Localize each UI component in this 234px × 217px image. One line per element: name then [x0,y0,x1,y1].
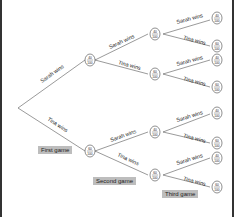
svg-text:100: 100 [152,133,158,137]
svg-text:100: 100 [214,159,220,163]
fraction-node: 60 100 [212,81,222,93]
fraction-node: 40 100 [212,107,222,119]
svg-text:100: 100 [152,35,158,39]
svg-text:100: 100 [214,61,220,65]
svg-text:60: 60 [215,83,219,87]
branch-label-tina: Tina wins [183,175,207,187]
fraction-node: 40 100 [212,12,222,24]
fraction-node: 60 100 [212,137,222,149]
svg-text:60: 60 [215,183,219,187]
svg-text:40: 40 [88,56,92,60]
branch-label-sarah: Sarah wins [39,63,65,84]
branch-label-sarah: Sarah wins [176,152,204,166]
branch-label-sarah: Sarah wins [176,54,204,67]
fraction-node: 40 100 [85,54,95,66]
fraction-node: 60 100 [212,181,222,193]
branch-label-tina: Tina wins [183,34,207,46]
branch-label-tina: Tina wins [46,116,69,134]
svg-text:60: 60 [215,42,219,46]
fraction-node: 60 100 [212,40,222,52]
branch-label-tina: Tina wins [117,151,141,166]
svg-text:100: 100 [87,152,93,156]
svg-text:100: 100 [214,144,220,148]
svg-text:60: 60 [88,147,92,151]
svg-text:60: 60 [153,70,157,74]
svg-text:100: 100 [214,188,220,192]
svg-text:40: 40 [215,154,219,158]
stage-label-first-game: First game [38,146,72,154]
svg-text:40: 40 [153,128,157,132]
stage-label-third-game: Third game [162,190,198,198]
svg-text:60: 60 [215,139,219,143]
svg-text:60: 60 [153,171,157,175]
svg-text:40: 40 [153,30,157,34]
branch-label-tina: Tina wins [183,75,207,87]
fraction-node: 40 100 [212,152,222,164]
fraction-node: 40 100 [150,126,160,138]
svg-text:40: 40 [215,14,219,18]
svg-text:40: 40 [215,56,219,60]
fraction-node: 60 100 [150,169,160,181]
fraction-node: 60 100 [150,68,160,80]
svg-text:100: 100 [87,61,93,65]
svg-text:100: 100 [152,75,158,79]
branch-label-tina: Tina wins [183,132,207,144]
svg-text:40: 40 [215,109,219,113]
fraction-node: 40 100 [212,54,222,66]
fraction-node: 40 100 [150,28,160,40]
svg-text:100: 100 [214,19,220,23]
branch-label-sarah: Sarah wins [108,33,135,50]
branch-label-sarah: Sarah wins [176,109,204,123]
svg-text:100: 100 [214,114,220,118]
svg-text:100: 100 [214,47,220,51]
stage-label-second-game: Second game [93,177,136,185]
fraction-node: 60 100 [85,145,95,157]
svg-text:100: 100 [214,88,220,92]
svg-text:100: 100 [152,176,158,180]
